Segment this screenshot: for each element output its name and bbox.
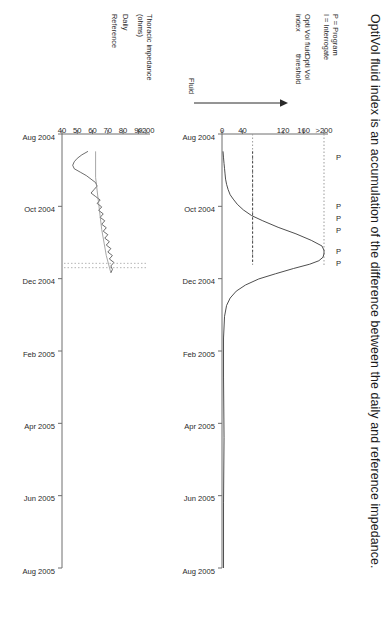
svg-text:Aug 2005: Aug 2005 (22, 567, 55, 576)
svg-text:Jun 2005: Jun 2005 (24, 494, 55, 503)
svg-text:160: 160 (297, 126, 310, 135)
svg-text:Apr 2005: Apr 2005 (184, 422, 215, 431)
thoracic-impedance-plot: 405060708090>200Aug 2004Oct 2004Dec 2004… (34, 116, 154, 586)
svg-text:P: P (336, 202, 341, 211)
svg-text:Feb 2005: Feb 2005 (23, 350, 55, 359)
legend-optivol-index: Opti Vol fluid index (294, 14, 312, 56)
legend-optivol-threshold: Opti Vol threshold (294, 54, 312, 84)
svg-text:P: P (336, 247, 341, 256)
svg-text:70: 70 (104, 126, 112, 135)
svg-text:60: 60 (88, 126, 96, 135)
program-marker: P (336, 153, 341, 162)
thoracic-impedance-svg: 405060708090>200Aug 2004Oct 2004Dec 2004… (34, 116, 154, 586)
rotated-page-wrapper: OptiVol fluid index is an accumulation o… (0, 0, 392, 643)
program-marker: P (336, 202, 341, 211)
svg-text:P: P (336, 153, 341, 162)
svg-text:50: 50 (73, 126, 81, 135)
program-marker: P (336, 226, 341, 235)
program-marker: P (336, 214, 341, 223)
svg-text:Dec 2004: Dec 2004 (22, 277, 55, 286)
svg-text:Dec 2004: Dec 2004 (182, 277, 215, 286)
legend-program-key: P = Program (331, 14, 340, 56)
svg-text:80: 80 (119, 126, 127, 135)
legend-reference: Reference (110, 14, 119, 48)
svg-text:P: P (336, 226, 341, 235)
svg-text:Oct 2004: Oct 2004 (184, 205, 215, 214)
svg-text:40: 40 (238, 126, 246, 135)
daily-line (73, 151, 114, 273)
fluid-direction-arrow (192, 96, 288, 110)
legend-interrogate-key: I = Interrogate (322, 14, 331, 60)
reference-line (96, 151, 111, 273)
optivol-fluid-index-line (223, 151, 324, 568)
svg-text:0: 0 (220, 126, 224, 135)
optivol-index-plot: 040120160>200Aug 2004Oct 2004Dec 2004Feb… (194, 116, 334, 586)
svg-text:Aug 2004: Aug 2004 (182, 133, 215, 142)
svg-text:Aug 2005: Aug 2005 (182, 567, 215, 576)
program-marker: P (336, 247, 341, 256)
figure-page: OptiVol fluid index is an accumulation o… (0, 0, 392, 643)
svg-text:40: 40 (58, 126, 66, 135)
svg-text:>200: >200 (315, 126, 332, 135)
program-marker: P (336, 259, 341, 268)
legend-daily: Daily (121, 14, 130, 30)
svg-text:Aug 2004: Aug 2004 (22, 133, 55, 142)
svg-text:Jun 2005: Jun 2005 (184, 494, 215, 503)
svg-text:120: 120 (277, 126, 290, 135)
svg-text:Oct 2004: Oct 2004 (24, 205, 55, 214)
fluid-axis-label: Fluid (187, 78, 196, 94)
svg-text:P: P (336, 259, 341, 268)
page-title: OptiVol fluid index is an accumulation o… (368, 14, 382, 569)
svg-text:Feb 2005: Feb 2005 (183, 350, 215, 359)
optivol-index-svg: 040120160>200Aug 2004Oct 2004Dec 2004Feb… (194, 116, 334, 586)
svg-text:P: P (336, 214, 341, 223)
svg-text:>200: >200 (137, 126, 154, 135)
legend-thoracic-impedance: Thoracic impedance (ohms) (136, 14, 154, 81)
svg-text:Apr 2005: Apr 2005 (24, 422, 55, 431)
